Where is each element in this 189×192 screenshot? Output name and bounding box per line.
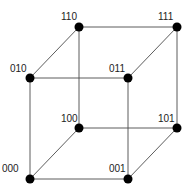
node-label-011: 011 (109, 63, 125, 74)
node-label-110: 110 (61, 11, 77, 22)
node-111 (173, 23, 182, 32)
edge-000-100 (30, 128, 79, 179)
node-001 (124, 175, 133, 184)
cube-diagram: 000001010011100101110111 (0, 0, 189, 192)
node-label-010: 010 (10, 63, 27, 74)
node-100 (75, 124, 84, 133)
edge-011-111 (128, 27, 177, 78)
edge-010-110 (30, 27, 79, 78)
edges (30, 27, 177, 179)
node-101 (173, 124, 182, 133)
node-label-111: 111 (158, 11, 174, 22)
edge-001-101 (128, 128, 177, 179)
node-label-000: 000 (2, 163, 19, 174)
labels: 000001010011100101110111 (2, 11, 175, 174)
node-000 (26, 175, 35, 184)
node-label-100: 100 (61, 113, 78, 124)
node-010 (26, 74, 35, 83)
node-011 (124, 74, 133, 83)
node-label-101: 101 (158, 113, 175, 124)
node-110 (75, 23, 84, 32)
node-label-001: 001 (109, 163, 126, 174)
